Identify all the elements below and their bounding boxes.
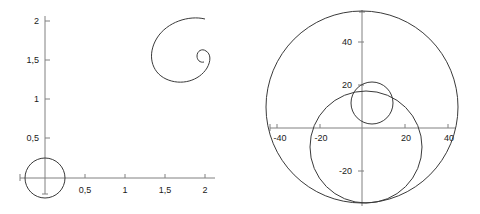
right-axes	[270, 10, 455, 206]
right-y-tick-label-1: 20	[342, 80, 352, 90]
right-x-tick-label-1: -20	[314, 133, 327, 143]
right-y-tick-labels: -20 20 40	[339, 37, 352, 176]
right-y-tick-label-2: 40	[342, 37, 352, 47]
right-y-ticks	[358, 42, 364, 171]
left-plot-panel: 0,5 1 1,5 2 0,5 1 1,5 2	[0, 0, 240, 214]
left-cardioid-curve	[151, 18, 209, 82]
left-y-tick-label-3: 2	[34, 16, 39, 26]
right-middle-circle-curve	[310, 91, 422, 203]
left-x-tick-label-1: 1	[122, 185, 127, 195]
right-inner-circle-curve	[351, 82, 393, 124]
right-y-tick-label-0: -20	[339, 166, 352, 176]
right-x-tick-labels: -40 -20 20 40	[273, 133, 454, 143]
right-x-tick-label-0: -40	[273, 133, 286, 143]
right-plot-svg: -40 -20 20 40 -20 20 40	[240, 0, 480, 214]
right-x-tick-label-2: 20	[401, 133, 411, 143]
left-x-tick-labels: 0,5 1 1,5 2	[79, 185, 208, 195]
left-x-ticks	[85, 174, 205, 178]
left-y-tick-label-1: 1	[34, 94, 39, 104]
left-y-tick-label-2: 1,5	[26, 55, 39, 65]
left-y-tick-labels: 0,5 1 1,5 2	[26, 16, 39, 143]
left-y-tick-label-0: 0,5	[26, 133, 39, 143]
left-axes	[20, 16, 215, 194]
left-y-ticks	[45, 21, 50, 138]
left-plot-svg: 0,5 1 1,5 2 0,5 1 1,5 2	[0, 0, 240, 214]
left-x-tick-label-2: 1,5	[159, 185, 172, 195]
right-plot-panel: -40 -20 20 40 -20 20 40	[240, 0, 480, 214]
figure-container: 0,5 1 1,5 2 0,5 1 1,5 2	[0, 0, 480, 214]
left-x-tick-label-0: 0,5	[79, 185, 92, 195]
left-x-tick-label-3: 2	[202, 185, 207, 195]
